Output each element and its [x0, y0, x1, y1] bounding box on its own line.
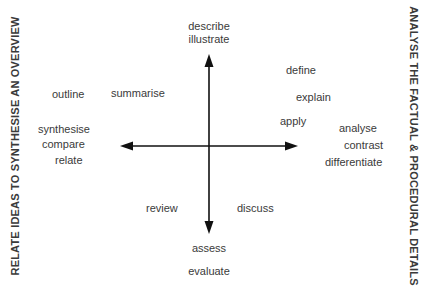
word-contrast: contrast	[344, 139, 383, 151]
word-apply: apply	[280, 115, 306, 127]
word-define: define	[286, 64, 316, 76]
right-axis-label: ANALYSE THE FACTUAL & PROCEDURAL DETAILS	[408, 6, 420, 286]
word-analyse: analyse	[339, 122, 377, 134]
word-evaluate: evaluate	[188, 265, 230, 277]
arrow-up-icon	[205, 54, 214, 67]
vertical-axis	[205, 54, 214, 234]
word-illustrate: illustrate	[189, 33, 230, 45]
word-relate: relate	[55, 154, 83, 166]
arrow-left-icon	[120, 142, 133, 151]
word-summarise: summarise	[111, 87, 165, 99]
word-describe: describe	[188, 20, 230, 32]
word-discuss: discuss	[237, 202, 274, 214]
word-outline: outline	[52, 88, 84, 100]
left-axis-label: RELATE IDEAS TO SYNTHESISE AN OVERVIEW	[9, 16, 21, 275]
word-review: review	[146, 202, 178, 214]
word-synthesise: synthesise	[38, 123, 90, 135]
word-explain: explain	[296, 91, 331, 103]
arrow-down-icon	[205, 221, 214, 234]
word-differentiate: differentiate	[325, 156, 382, 168]
word-compare: compare	[42, 138, 85, 150]
arrow-right-icon	[285, 142, 298, 151]
word-assess: assess	[192, 242, 226, 254]
